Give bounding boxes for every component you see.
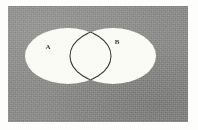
scanned-image-panel: A B [8,6,188,122]
venn-diagram-canvas [8,6,188,122]
set-b-label: B [113,39,121,46]
venn-diagram-figure: A B [0,0,198,130]
set-a-label: A [44,44,52,51]
